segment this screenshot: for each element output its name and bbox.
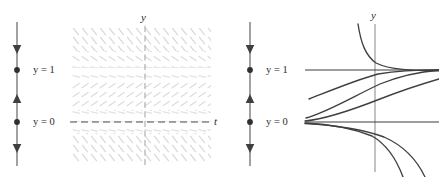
phase-arrow-down-top [13, 45, 22, 54]
phase-label-y1-left: y = 1 [33, 65, 55, 76]
phase-arrow-up-middle [13, 94, 22, 103]
equilibrium-dot-y1-right [247, 67, 253, 73]
slope-field [72, 28, 211, 163]
solution-curve-above-1 [358, 24, 439, 71]
panel-slope-field: y = 1 y = 0 y t [0, 0, 220, 177]
phase-line-right [246, 22, 255, 166]
phase-arrow-down-bottom-right [246, 144, 255, 153]
phase-arrow-up-middle-right [246, 94, 255, 103]
right-panel-graphics [220, 0, 439, 177]
solution-curve-below-1-b [306, 70, 439, 118]
phase-arrow-down-top-right [246, 45, 255, 54]
phase-arrow-down-bottom [13, 144, 22, 153]
equilibrium-dot-y0 [14, 119, 20, 125]
y-axis-label-left: y [141, 12, 146, 23]
left-panel-graphics [0, 0, 220, 177]
equilibrium-dot-y1 [14, 67, 20, 73]
y-axis-label-right: y [371, 10, 376, 21]
solution-curve-below-0-a [305, 123, 403, 177]
solution-curve-below-1-c [305, 79, 439, 121]
solution-curve-below-0-b [305, 124, 425, 178]
figure-phase-line-and-solutions: y = 1 y = 0 y t [0, 0, 439, 177]
phase-label-y0-right: y = 0 [266, 117, 288, 128]
phase-label-y0-left: y = 0 [33, 117, 55, 128]
solution-curves [305, 24, 439, 177]
panel-solution-curves: y = 1 y = 0 y [220, 0, 439, 177]
phase-line-left [13, 22, 22, 166]
equilibrium-solutions [305, 70, 439, 122]
equilibrium-dot-y0-right [247, 119, 253, 125]
t-axis-label-left: t [214, 116, 217, 127]
phase-label-y1-right: y = 1 [266, 65, 288, 76]
